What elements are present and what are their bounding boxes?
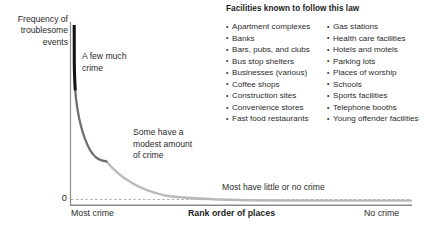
annotation-moderate-crime: Some have a modest amount of crime [133, 127, 192, 162]
facility-item: Fast food restaurants [226, 113, 327, 125]
facility-item: Schools [327, 79, 431, 91]
facility-item: Construction sites [226, 90, 327, 102]
facility-item: Businesses (various) [226, 67, 327, 79]
y-axis-title: Frequency of troublesome events [2, 14, 68, 48]
facility-item: Sports facilities [327, 90, 431, 102]
facilities-column-right: Gas stationsHealth care facilitiesHotels… [327, 21, 431, 125]
facility-item: Bars, pubs, and clubs [226, 44, 327, 56]
facilities-columns: Apartment complexesBanksBars, pubs, and … [226, 21, 431, 125]
facility-item: Apartment complexes [226, 21, 327, 33]
facility-item: Parking lots [327, 56, 431, 68]
annotation-high-crime: A few much crime [82, 51, 126, 74]
facility-item: Banks [226, 33, 327, 45]
facility-item: Bus stop shelters [226, 56, 327, 68]
facilities-panel-title: Facilities known to follow this law [226, 4, 431, 13]
curve-segment-low-crime [106, 161, 411, 201]
annotation-low-crime: Most have little or no crime [222, 182, 325, 194]
facility-item: Telephone booths [327, 102, 431, 114]
x-axis-right-label: No crime [364, 208, 399, 219]
facility-item: Gas stations [327, 21, 431, 33]
facilities-column-left: Apartment complexesBanksBars, pubs, and … [226, 21, 327, 125]
facility-item: Hotels and motels [327, 44, 431, 56]
facility-item: Places of worship [327, 67, 431, 79]
facility-item: Health care facilities [327, 33, 431, 45]
y-axis-zero-tick: 0 [55, 192, 67, 203]
facility-item: Coffee shops [226, 79, 327, 91]
facility-item: Convenience stores [226, 102, 327, 114]
facility-item: Young offender facilities [327, 113, 431, 125]
curve-segment-moderate-crime [75, 90, 106, 161]
curve-segment-high-crime [74, 25, 75, 90]
x-axis-title: Rank order of places [188, 208, 275, 219]
facilities-panel: Facilities known to follow this law Apar… [226, 4, 431, 125]
x-axis-left-label: Most crime [71, 208, 114, 219]
